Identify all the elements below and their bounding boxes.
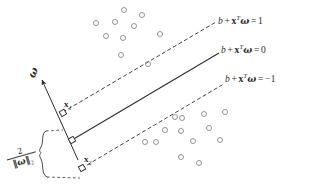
lower-margin-line-group xyxy=(82,85,222,168)
hyperplane-line-group xyxy=(72,53,219,140)
hyperplane-line xyxy=(72,53,219,140)
data-point xyxy=(180,116,185,121)
x2-sub: 2 xyxy=(89,159,92,166)
upper-margin-line xyxy=(63,22,216,112)
upper-margin-line-group xyxy=(63,22,216,112)
hyperplane-equation-label: b+xTω=0 xyxy=(221,43,266,55)
data-point xyxy=(121,36,126,41)
data-point xyxy=(202,112,207,117)
upper-eq-equals: = xyxy=(250,16,259,26)
data-point xyxy=(132,24,137,29)
data-point xyxy=(191,139,196,144)
data-point xyxy=(154,140,159,145)
series-class-positive-cluster xyxy=(94,8,163,58)
upper-margin-equation-label: b+xTω=1 xyxy=(218,14,263,26)
data-point xyxy=(173,115,178,120)
data-points-layer xyxy=(94,8,228,166)
series-support-vectors-on-margins xyxy=(146,62,185,121)
lower-eq-value: −1 xyxy=(265,74,276,84)
data-point xyxy=(143,140,148,145)
normal-vector-arrow xyxy=(42,80,78,160)
data-point xyxy=(218,138,223,143)
data-point xyxy=(179,129,184,134)
data-point xyxy=(207,126,212,131)
normal-vector-arrow-group xyxy=(42,80,78,160)
data-point xyxy=(197,161,202,166)
x1-sub: 1 xyxy=(69,104,72,111)
figure-canvas xyxy=(0,0,332,192)
data-point xyxy=(122,8,127,13)
lower-eq-plus: + xyxy=(230,74,239,84)
lower-eq-equals: = xyxy=(257,74,266,84)
series-class-negative-cluster xyxy=(143,110,228,166)
data-point xyxy=(140,13,145,18)
support-vector-markers xyxy=(59,109,85,171)
mid-eq-value: 0 xyxy=(261,45,266,55)
lower-margin-equation-label: b+xTω=−1 xyxy=(225,72,276,84)
data-point xyxy=(179,155,184,160)
upper-eq-value: 1 xyxy=(258,16,263,26)
lower-eq-omega: ω xyxy=(247,73,256,84)
marker-hyperplane-point xyxy=(68,136,75,143)
data-point xyxy=(223,110,228,115)
upper-eq-omega: ω xyxy=(240,15,249,26)
mid-eq-plus: + xyxy=(226,45,235,55)
mid-eq-equals: = xyxy=(253,45,262,55)
svm-margin-figure: b+xTω=1 b+xTω=0 b+xTω=−1 ω x1 x2 2 ‖ω‖2 xyxy=(0,0,332,192)
data-point xyxy=(158,32,163,37)
lower-margin-line xyxy=(82,85,222,168)
data-point xyxy=(119,53,124,58)
data-point xyxy=(94,21,99,26)
data-point xyxy=(113,20,118,25)
mid-eq-omega: ω xyxy=(243,44,252,55)
support-point-1-label: x1 xyxy=(64,99,72,111)
data-point xyxy=(163,128,168,133)
data-point xyxy=(104,34,109,39)
support-point-2-label: x2 xyxy=(84,154,92,166)
margin-norm-sub: 2 xyxy=(30,159,35,166)
upper-eq-plus: + xyxy=(223,16,232,26)
